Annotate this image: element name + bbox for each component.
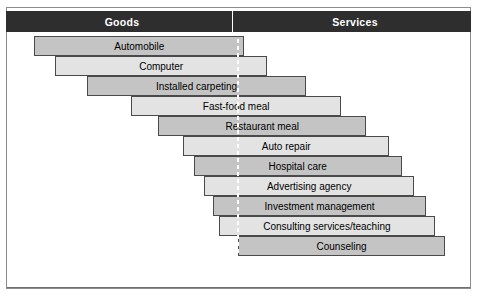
bar-auto-repair: Auto repair — [183, 136, 389, 156]
bar-advertising-agency: Advertising agency — [204, 176, 414, 196]
bar-label: Investment management — [265, 201, 375, 212]
bar-label: Computer — [139, 61, 183, 72]
bar-consulting-services-teaching: Consulting services/teaching — [219, 216, 435, 236]
bar-label: Installed carpeting — [156, 81, 237, 92]
bar-label: Counseling — [316, 241, 366, 252]
goods-services-chart: Goods Services AutomobileComputerInstall… — [0, 0, 477, 296]
bar-installed-carpeting: Installed carpeting — [87, 76, 307, 96]
bar-label: Automobile — [114, 41, 164, 52]
bar-automobile: Automobile — [34, 36, 244, 56]
bar-label: Hospital care — [269, 161, 327, 172]
bar-restaurant-meal: Restaurant meal — [158, 116, 366, 136]
bar-fast-food-meal: Fast-food meal — [131, 96, 342, 116]
bar-counseling: Counseling — [238, 236, 445, 256]
bar-label: Advertising agency — [267, 181, 352, 192]
x-axis-line — [7, 287, 470, 288]
bar-label: Consulting services/teaching — [263, 221, 390, 232]
bar-computer: Computer — [55, 56, 267, 76]
bar-investment-management: Investment management — [213, 196, 427, 216]
bar-label: Fast-food meal — [203, 101, 270, 112]
bar-hospital-care: Hospital care — [194, 156, 402, 176]
plot-area: AutomobileComputerInstalled carpetingFas… — [0, 0, 477, 296]
bar-label: Auto repair — [262, 141, 311, 152]
bar-label: Restaurant meal — [226, 121, 299, 132]
